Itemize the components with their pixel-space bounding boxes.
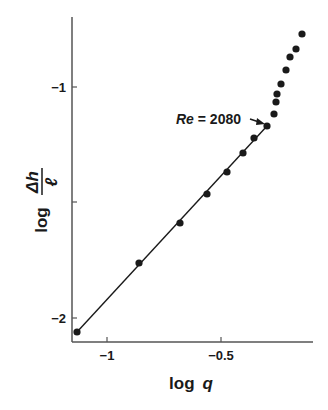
x-tick-label: −0.5 — [208, 348, 234, 363]
y-tick-label: −2 — [51, 311, 66, 326]
chart: −1 −2 −1 −0.5 logq log Δh ℓ Re = 2080 — [0, 0, 328, 410]
annotation-arrow — [250, 118, 265, 125]
data-point — [135, 259, 142, 266]
data-point — [263, 122, 270, 129]
fit-line — [77, 126, 267, 332]
data-point — [239, 149, 246, 156]
x-tick-label: −1 — [100, 348, 115, 363]
svg-text:ℓ: ℓ — [42, 177, 61, 186]
data-point — [203, 190, 210, 197]
data-point — [282, 66, 289, 73]
data-point — [223, 168, 230, 175]
svg-text:log: log — [32, 207, 51, 233]
data-point — [272, 98, 279, 105]
annotation-re: Re = 2080 — [176, 111, 241, 127]
x-axis-label: logq — [169, 374, 214, 393]
data-point — [250, 134, 257, 141]
y-axis-label: log Δh ℓ — [23, 168, 61, 233]
data-point — [292, 45, 299, 52]
y-tick-label: −1 — [51, 80, 66, 95]
data-point — [176, 219, 183, 226]
data-point — [286, 53, 293, 60]
data-points — [73, 30, 305, 335]
data-point — [273, 90, 280, 97]
svg-text:Δh: Δh — [23, 171, 42, 194]
data-point — [73, 328, 80, 335]
data-point — [277, 80, 284, 87]
data-point — [298, 30, 305, 37]
data-point — [270, 110, 277, 117]
